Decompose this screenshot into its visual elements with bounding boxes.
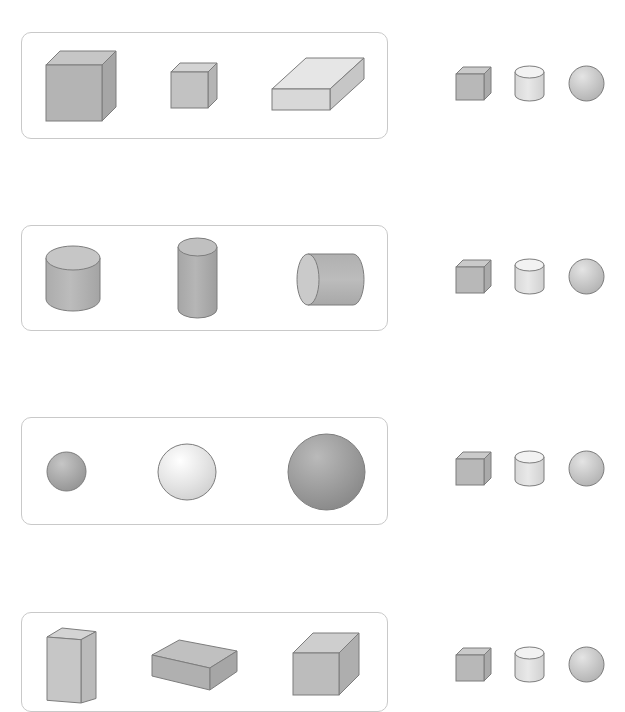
row-1-sphere-option[interactable] <box>569 66 604 101</box>
row-4-sphere-option[interactable] <box>569 647 604 682</box>
row-3-sphere-option[interactable] <box>569 451 604 486</box>
row-1-cylinder-option[interactable] <box>515 66 544 101</box>
horizontal-cylinder-icon <box>297 254 364 305</box>
small-sphere-icon <box>47 452 86 491</box>
tall-cylinder-icon <box>178 238 217 318</box>
light-sphere-icon <box>158 444 216 500</box>
large-sphere-icon <box>288 434 365 510</box>
row-3-cylinder-option[interactable] <box>515 451 544 486</box>
large-cube-icon <box>46 51 116 121</box>
cube-box-icon <box>293 633 359 695</box>
flat-box-icon <box>152 640 237 690</box>
row-1-cube-option[interactable] <box>456 67 491 100</box>
row-2-sphere-option[interactable] <box>569 259 604 294</box>
tall-prism-icon <box>47 628 96 703</box>
row-2-cylinder-option[interactable] <box>515 259 544 294</box>
row-2-cube-option[interactable] <box>456 260 491 293</box>
row-4-cylinder-option[interactable] <box>515 647 544 682</box>
small-cube-icon <box>171 63 217 108</box>
short-cylinder-icon <box>46 246 100 311</box>
row-4-cube-option[interactable] <box>456 648 491 681</box>
row-3-cube-option[interactable] <box>456 452 491 485</box>
flat-cuboid-icon <box>272 58 364 110</box>
